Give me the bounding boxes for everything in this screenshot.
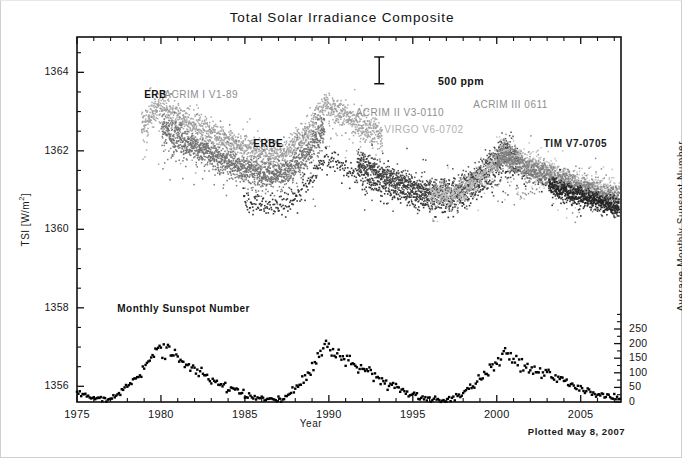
series-annotation: ERBE — [253, 138, 283, 149]
y-tick-label-right: 150 — [629, 351, 647, 363]
y-tick-label-left: 1360 — [17, 222, 69, 234]
x-tick-label: 1985 — [215, 408, 275, 420]
y-tick-label-right: 200 — [629, 337, 647, 349]
series-annotation: ACRIM II V3-0110 — [356, 107, 444, 118]
series-annotation: ACRIM III 0611 — [473, 99, 548, 110]
series-annotation: VIRGO V6-0702 — [384, 124, 463, 135]
error-bar-500ppm — [374, 57, 384, 84]
y-tick-label-left: 1362 — [17, 144, 69, 156]
y-tick-label-right: 250 — [629, 322, 647, 334]
x-tick-label: 1980 — [131, 408, 191, 420]
chart-canvas — [1, 1, 682, 458]
y-tick-label-left: 1358 — [17, 301, 69, 313]
figure-page: Total Solar Irradiance Composite TSI [W/… — [0, 0, 682, 458]
y-tick-label-right: 100 — [629, 366, 647, 378]
y-tick-label-left: 1364 — [17, 65, 69, 77]
series-annotation: TIM V7-0705 — [544, 138, 607, 149]
x-tick-label: 2005 — [551, 408, 611, 420]
x-tick-label: 1995 — [383, 408, 443, 420]
series-annotation: ACRIM I V1-89 — [164, 89, 238, 100]
y-axis-label-right: Average Monthly Sunspot Number — [676, 152, 682, 312]
x-tick-label: 2000 — [467, 408, 527, 420]
y-tick-label-right: 0 — [629, 395, 635, 407]
x-tick-label: 1990 — [299, 408, 359, 420]
x-tick-label: 1975 — [47, 408, 107, 420]
y-axis-label-left: TSI [W/m2] — [17, 175, 30, 265]
y-tick-label-right: 50 — [629, 380, 641, 392]
series-annotation: Monthly Sunspot Number — [117, 303, 250, 314]
y-tick-label-left: 1356 — [17, 379, 69, 391]
sunspot-scatter-points — [76, 340, 621, 404]
plotted-date: Plotted May 8, 2007 — [528, 426, 625, 437]
error-bar-label: 500 ppm — [438, 75, 484, 87]
